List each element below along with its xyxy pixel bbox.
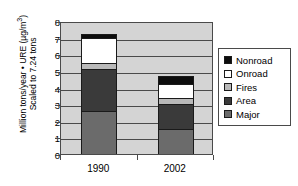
bar-segment-nonroad (158, 76, 194, 84)
bar-segment-fires (81, 63, 117, 70)
legend-item-onroad[interactable]: Onroad (224, 67, 286, 80)
bar-segment-area (158, 104, 194, 129)
bar-segment-area (81, 69, 117, 111)
legend: NonroadOnroadFiresAreaMajor (218, 48, 291, 126)
legend-swatch-onroad (224, 70, 232, 78)
x-axis-tick-mark (60, 155, 61, 160)
legend-swatch-area (224, 97, 232, 105)
plot-area (60, 22, 213, 155)
bar-segment-major (158, 129, 194, 154)
bar-2002 (158, 76, 194, 154)
legend-label: Fires (236, 82, 257, 93)
x-axis-tick-mark (137, 155, 138, 160)
legend-label: Area (236, 95, 256, 106)
y-axis-title-line1: Million tons/year • URE (µg/m3) (15, 0, 28, 149)
legend-item-area[interactable]: Area (224, 94, 286, 107)
legend-item-nonroad[interactable]: Nonroad (224, 54, 286, 67)
legend-label: Nonroad (236, 55, 272, 66)
bar-segment-onroad (81, 38, 117, 62)
x-axis-label-2002: 2002 (145, 163, 205, 174)
y-axis-ticks: 012345678 (42, 0, 60, 186)
y-axis-title-line2: Scaled to 7.24 tons (28, 0, 39, 149)
legend-label: Major (236, 109, 260, 120)
bar-segment-major (81, 111, 117, 154)
legend-item-major[interactable]: Major (224, 108, 286, 121)
bar-1990 (81, 34, 117, 154)
x-axis-tick-mark (213, 155, 214, 160)
bar-segment-onroad (158, 84, 194, 98)
x-axis-label-1990: 1990 (68, 163, 128, 174)
chart-figure: Million tons/year • URE (µg/m3) Scaled t… (0, 0, 298, 186)
legend-label: Onroad (236, 68, 268, 79)
legend-swatch-major (224, 110, 232, 118)
legend-item-fires[interactable]: Fires (224, 81, 286, 94)
legend-swatch-nonroad (224, 56, 232, 64)
legend-swatch-fires (224, 83, 232, 91)
y-axis-title: Million tons/year • URE (µg/m3) Scaled t… (0, 0, 42, 170)
